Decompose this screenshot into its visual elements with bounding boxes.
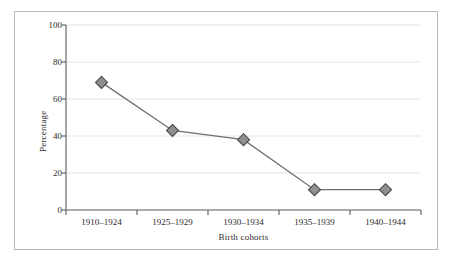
figure-container: Percentage 100 80 60 40 20 0 [0, 0, 453, 263]
data-point-1940-1944[interactable] [380, 184, 392, 196]
data-point-1935-1939[interactable] [309, 184, 321, 196]
x-axis-title: Birth cohorts [66, 232, 421, 242]
x-tick-label-1940-1944: 1940–1944 [350, 217, 421, 227]
x-tick-label-1925-1929: 1925–1929 [137, 217, 208, 227]
x-axis-ticks [66, 210, 421, 215]
x-tick-label-1930-1934: 1930–1934 [208, 217, 279, 227]
data-point-1910-1924[interactable] [96, 76, 108, 88]
x-tick-label-1935-1939: 1935–1939 [279, 217, 350, 227]
y-axis-ticks [62, 25, 66, 210]
gridlines [66, 25, 421, 173]
x-tick-label-1910-1924: 1910–1924 [66, 217, 137, 227]
line-chart: Percentage 100 80 60 40 20 0 [0, 0, 453, 263]
data-point-1925-1929[interactable] [167, 125, 179, 137]
